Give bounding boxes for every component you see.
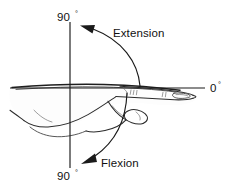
extension-label: Extension	[113, 27, 164, 39]
bottom-angle-label: 90	[57, 170, 70, 182]
right-angle-label: 0	[210, 82, 216, 94]
range-of-motion-diagram: 90 ° 90 ° 0 ° Extension Flexion	[0, 0, 230, 187]
right-angle-degree-symbol: °	[218, 80, 221, 89]
label-layer: 90 ° 90 ° 0 ° Extension Flexion	[0, 0, 230, 187]
top-angle-label: 90	[57, 11, 70, 23]
flexion-label: Flexion	[101, 157, 139, 169]
bottom-angle-degree-symbol: °	[75, 168, 78, 177]
top-angle-degree-symbol: °	[75, 9, 78, 18]
